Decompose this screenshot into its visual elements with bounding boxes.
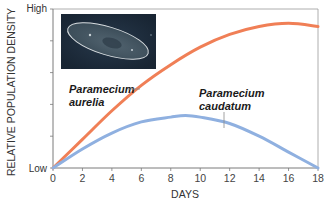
x-tick-label: 6 xyxy=(138,172,144,184)
x-tick-label: 4 xyxy=(109,172,115,184)
label-aurelia-line1: Paramecium xyxy=(69,83,135,95)
line-paramecium-caudatum xyxy=(53,116,318,168)
paramecium-photo xyxy=(61,14,156,69)
x-ticks: 024681012141618 xyxy=(50,168,324,184)
x-tick-label: 14 xyxy=(253,172,265,184)
x-axis-title: DAYS xyxy=(171,188,199,200)
x-tick-label: 0 xyxy=(50,172,56,184)
x-tick-label: 16 xyxy=(283,172,295,184)
label-caudatum-line2: caudatum xyxy=(199,100,251,112)
label-aurelia-line2: aurelia xyxy=(69,96,104,108)
y-tick-low: Low xyxy=(29,163,48,174)
x-tick-label: 8 xyxy=(168,172,174,184)
label-caudatum-line1: Paramecium xyxy=(199,87,265,99)
x-tick-label: 12 xyxy=(224,172,236,184)
population-chart: RELATIVE POPULATION DENSITY High Low 024… xyxy=(0,0,324,208)
y-tick-high: High xyxy=(26,3,47,14)
x-tick-label: 10 xyxy=(194,172,206,184)
x-tick-label: 18 xyxy=(312,172,324,184)
x-tick-label: 2 xyxy=(80,172,86,184)
y-axis-title: RELATIVE POPULATION DENSITY xyxy=(5,8,17,176)
